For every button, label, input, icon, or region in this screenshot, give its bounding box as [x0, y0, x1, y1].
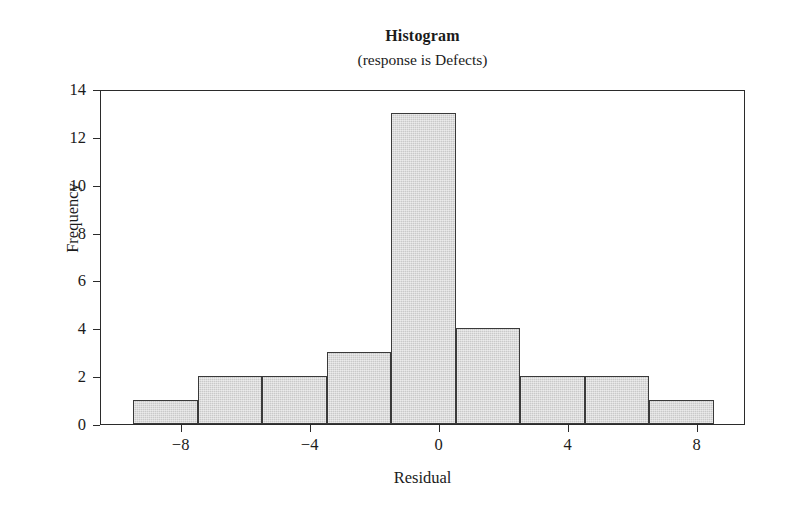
- x-axis-tick-label: 4: [564, 437, 572, 454]
- y-axis-tick-mark: [93, 329, 100, 330]
- y-axis-tick-mark: [93, 90, 100, 91]
- x-axis-tick-labels: −8−4048: [100, 437, 745, 461]
- y-axis-tick-label: 10: [70, 177, 87, 194]
- x-axis-tick-mark: [310, 425, 311, 432]
- y-axis-tick-label: 4: [78, 321, 86, 338]
- y-axis-tick-label: 8: [78, 225, 86, 242]
- x-axis-tick-mark: [439, 425, 440, 432]
- y-axis-tick-label: 2: [78, 369, 86, 386]
- x-axis-tick-label: −8: [172, 437, 190, 454]
- chart-subtitle: (response is Defects): [100, 51, 745, 69]
- chart-title: Histogram: [100, 27, 745, 45]
- plot-area: [101, 91, 744, 424]
- y-axis-tick-label: 6: [78, 273, 86, 290]
- plot-frame: [100, 90, 745, 425]
- y-axis-tick-marks: [93, 90, 100, 425]
- y-axis-tick-mark: [93, 281, 100, 282]
- x-axis-tick-label: 8: [693, 437, 701, 454]
- histogram-bar: [133, 400, 198, 424]
- x-axis-tick-marks: [100, 425, 745, 433]
- histogram-figure: Histogram (response is Defects) Frequenc…: [0, 0, 785, 510]
- y-axis-tick-label: 12: [70, 130, 87, 147]
- histogram-bar: [327, 352, 392, 424]
- y-axis-tick-labels: 02468101214: [52, 90, 86, 425]
- y-axis-tick-label: 14: [70, 82, 87, 99]
- x-axis-tick-mark: [568, 425, 569, 432]
- histogram-bar: [262, 376, 327, 424]
- y-axis-tick-mark: [93, 186, 100, 187]
- histogram-bar: [198, 376, 263, 424]
- x-axis-label: Residual: [100, 468, 745, 488]
- histogram-bar: [456, 328, 521, 424]
- histogram-bar: [391, 113, 456, 424]
- x-axis-tick-mark: [181, 425, 182, 432]
- histogram-bar: [649, 400, 714, 424]
- y-axis-tick-mark: [93, 425, 100, 426]
- x-axis-tick-label: 0: [435, 437, 443, 454]
- y-axis-tick-mark: [93, 377, 100, 378]
- y-axis-tick-label: 0: [78, 417, 86, 434]
- x-axis-tick-mark: [697, 425, 698, 432]
- y-axis-tick-mark: [93, 138, 100, 139]
- histogram-bar: [585, 376, 650, 424]
- x-axis-tick-label: −4: [301, 437, 319, 454]
- y-axis-tick-mark: [93, 234, 100, 235]
- histogram-bar: [520, 376, 585, 424]
